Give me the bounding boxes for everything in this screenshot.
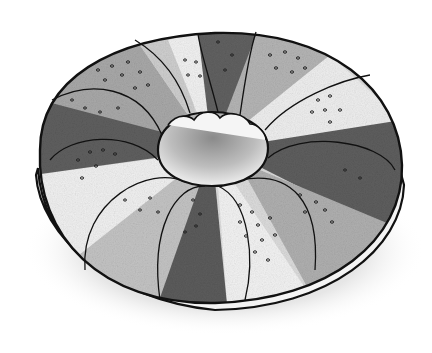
ring-bread-drawing xyxy=(0,0,432,353)
ring-bread-illustration xyxy=(0,0,432,353)
